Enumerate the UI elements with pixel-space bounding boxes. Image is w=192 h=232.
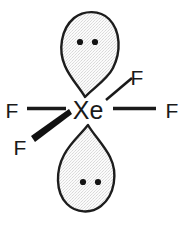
lobe-top-outline bbox=[61, 12, 118, 97]
ligand-label-f-left: F bbox=[6, 99, 19, 122]
structure-canvas: Xe F F F F bbox=[0, 0, 192, 232]
ligand-label-f-lower-left: F bbox=[14, 136, 27, 159]
lone-pair-dot-top-right bbox=[92, 39, 98, 45]
ligand-label-f-upper-right: F bbox=[131, 66, 144, 89]
bond-wedge-lower-left bbox=[31, 109, 72, 142]
bond-line-upper-right bbox=[106, 78, 132, 100]
central-atom-label-xe: Xe bbox=[73, 96, 104, 124]
lone-pair-dot-bottom-right bbox=[95, 179, 101, 185]
lobe-bottom-outline bbox=[58, 125, 114, 211]
lone-pair-dot-bottom-left bbox=[80, 179, 86, 185]
ligand-label-f-right: F bbox=[166, 99, 179, 122]
lone-pair-dot-top-left bbox=[77, 39, 83, 45]
lone-pair-lobe-top bbox=[61, 12, 118, 97]
lone-pair-lobe-bottom bbox=[58, 125, 114, 211]
chemical-structure-diagram: Xe F F F F bbox=[0, 0, 192, 232]
